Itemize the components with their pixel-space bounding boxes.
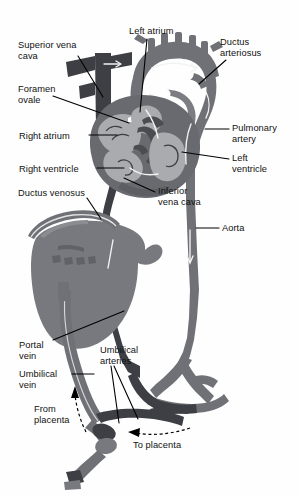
liver-organ bbox=[31, 221, 162, 349]
svc-lower-stub bbox=[79, 82, 95, 99]
label-pulmonary-artery: Pulmonary artery bbox=[232, 123, 277, 144]
label-left-ventricle: Left ventricle bbox=[232, 153, 267, 174]
fetal-circulation-figure: Superior vena cava Foramen ovale Right a… bbox=[0, 0, 300, 497]
label-aorta: Aorta bbox=[222, 223, 244, 234]
to-placenta-arrow-path bbox=[136, 428, 190, 434]
label-right-ventricle: Right ventricle bbox=[19, 164, 79, 175]
label-ductus-arteriosus: Ductus arteriosus bbox=[220, 37, 261, 58]
label-ductus-venosus: Ductus venosus bbox=[18, 188, 85, 199]
label-portal-vein: Portal vein bbox=[19, 340, 44, 361]
label-foramen-ovale: Foramen ovale bbox=[18, 84, 56, 105]
cord-tip-end bbox=[64, 480, 81, 490]
label-left-atrium: Left atrium bbox=[129, 26, 173, 37]
label-superior-vena-cava: Superior vena cava bbox=[18, 40, 77, 61]
heart bbox=[90, 95, 200, 198]
label-right-atrium: Right atrium bbox=[19, 131, 70, 142]
label-umbilical-arteries: Umbilical arteries bbox=[100, 345, 138, 366]
arch-lumen-opening bbox=[160, 64, 195, 88]
svc-right-branch bbox=[111, 52, 132, 69]
umbilical-cord bbox=[64, 420, 118, 490]
label-from-placenta: From placenta bbox=[34, 404, 70, 425]
label-umbilical-vein: Umbilical vein bbox=[19, 369, 57, 390]
to-placenta-arrowhead bbox=[128, 428, 140, 437]
label-to-placenta: To placenta bbox=[133, 440, 181, 451]
label-inferior-vena-cava: Inferior vena cava bbox=[158, 186, 201, 207]
